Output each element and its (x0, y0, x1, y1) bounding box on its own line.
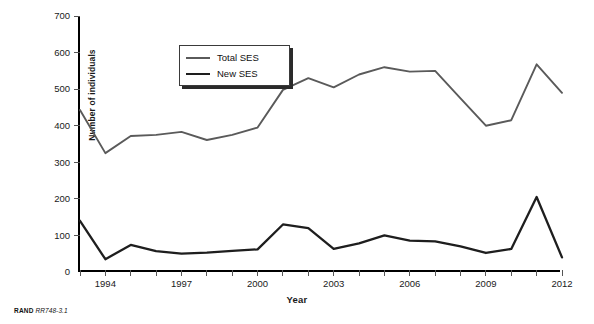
legend-swatch-total-ses-icon (186, 57, 210, 59)
legend-item-new-ses: New SES (186, 66, 283, 82)
x-tick-label: 1994 (83, 278, 127, 289)
legend-item-total-ses: Total SES (186, 50, 283, 66)
y-tick-label: 0 (65, 267, 70, 277)
y-tick-label: 700 (54, 11, 70, 21)
series-line-total-ses (80, 64, 562, 153)
y-tick-label: 400 (54, 121, 70, 131)
x-tick-label: 2003 (312, 278, 356, 289)
x-tick-label: 2006 (388, 278, 432, 289)
legend-label-total-ses: Total SES (217, 53, 259, 63)
x-tick-label: 2009 (464, 278, 508, 289)
chart-figure: Number of individuals 010020030040050060… (0, 0, 594, 324)
plot-area: Number of individuals 010020030040050060… (78, 16, 560, 272)
y-tick-label: 300 (54, 158, 70, 168)
legend-label-new-ses: New SES (217, 69, 258, 79)
y-tick-label: 200 (54, 194, 70, 204)
y-tick-label: 100 (54, 231, 70, 241)
y-tick-label: 500 (54, 84, 70, 94)
x-tick-label: 2012 (540, 278, 584, 289)
chart-legend: Total SES New SES (179, 45, 290, 86)
x-tick-label: 2000 (236, 278, 280, 289)
legend-swatch-new-ses-icon (186, 73, 210, 75)
series-lines (80, 16, 562, 272)
source-note: RAND RR748-3.1 (14, 307, 68, 314)
x-axis-title: Year (0, 294, 594, 305)
source-note-code: RR748-3.1 (35, 307, 67, 314)
y-tick-label: 600 (54, 48, 70, 58)
x-tick-label: 1997 (159, 278, 203, 289)
series-line-new-ses (80, 197, 562, 259)
source-note-brand: RAND (14, 307, 34, 314)
